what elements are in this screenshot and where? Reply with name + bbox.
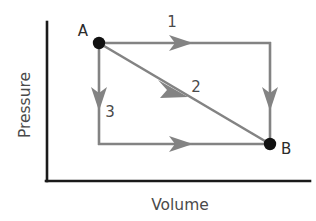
- x-axis-label: Volume: [151, 196, 209, 214]
- state-label-a: A: [78, 22, 89, 40]
- process-label-2: 2: [191, 78, 201, 96]
- y-axis-label: Pressure: [16, 72, 34, 138]
- process-label-3: 3: [105, 103, 115, 121]
- state-label-b: B: [281, 140, 291, 158]
- pv-diagram: A B 1 2 3 Pressure Volume: [0, 0, 316, 221]
- process-label-1: 1: [167, 13, 177, 31]
- state-point-a-dot: [93, 37, 105, 49]
- state-point-b-dot: [264, 138, 276, 150]
